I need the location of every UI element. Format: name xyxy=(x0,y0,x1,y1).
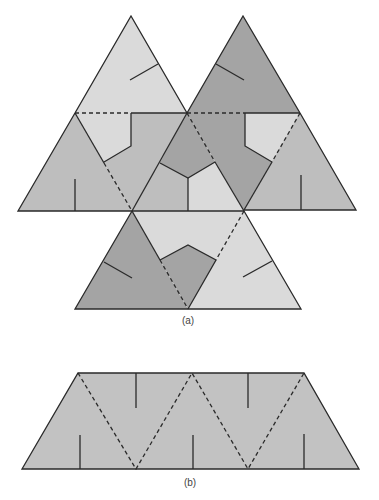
caption-b: (b) xyxy=(184,477,196,488)
panel-b xyxy=(22,373,359,469)
caption-a: (a) xyxy=(182,315,194,326)
top-right-triangle xyxy=(187,16,300,113)
trapezoid-strip xyxy=(22,373,359,469)
top-left-triangle xyxy=(75,16,187,113)
panel-a xyxy=(18,16,356,309)
diagram-canvas xyxy=(0,0,379,500)
